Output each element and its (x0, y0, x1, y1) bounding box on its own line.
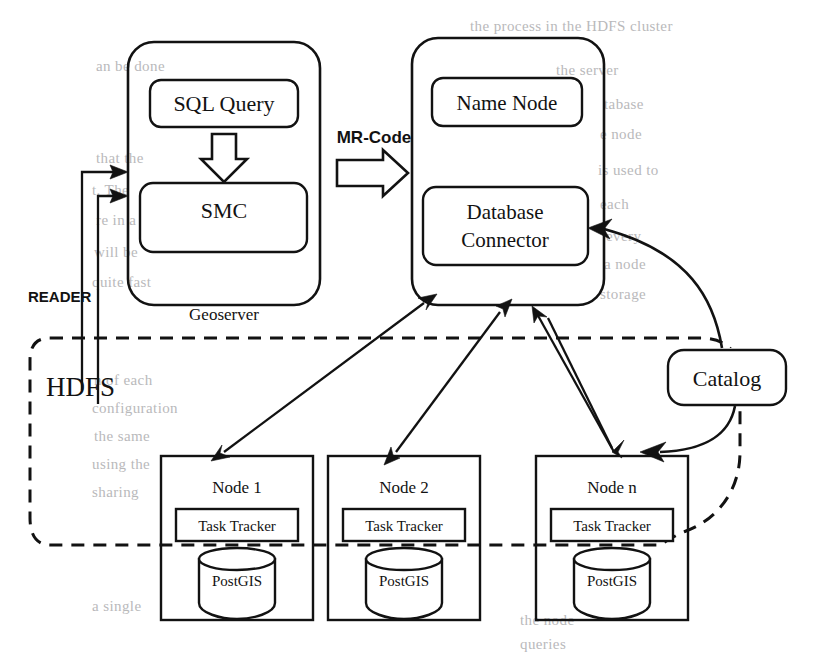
catalog-to-noden-arrow (640, 406, 735, 462)
down-block-arrow-icon (201, 134, 247, 182)
noden-connector-link (532, 306, 624, 458)
reader-connection (82, 165, 128, 404)
sql-query-label: SQL Query (173, 91, 274, 116)
smc-label: SMC (201, 198, 247, 223)
name-node-label: Name Node (457, 91, 558, 115)
database-connector-label-line1: Database (467, 200, 544, 224)
node-1-title: Node 1 (212, 478, 262, 497)
node-n-title: Node n (587, 478, 637, 497)
hdfs-label: HDFS (46, 372, 115, 402)
mr-code-label: MR-Code (337, 128, 412, 147)
node-n-task-tracker-label: Task Tracker (573, 518, 651, 534)
catalog-label: Catalog (693, 366, 761, 391)
right-block-arrow-icon (337, 150, 408, 196)
node-2-title: Node 2 (379, 478, 429, 497)
node-2-postgis-label: PostGIS (379, 573, 429, 589)
database-connector-label-line2: Connector (461, 228, 548, 252)
node-2-task-tracker-label: Task Tracker (365, 518, 443, 534)
database-connector-box[interactable] (423, 187, 588, 265)
reader-label: READER (28, 288, 92, 305)
node-1-postgis-label: PostGIS (212, 573, 262, 589)
architecture-diagram: the process in the HDFS clusteran be don… (0, 0, 815, 658)
catalog-to-connector-arrow (588, 219, 722, 348)
geoserver-label: Geoserver (189, 305, 259, 324)
node-1-task-tracker-label: Task Tracker (198, 518, 276, 534)
node2-connector-link (384, 299, 512, 465)
node-n-postgis-label: PostGIS (587, 573, 637, 589)
diagram-canvas: HDFS Geoserver SQL Query SMC MR-Code (0, 0, 815, 658)
